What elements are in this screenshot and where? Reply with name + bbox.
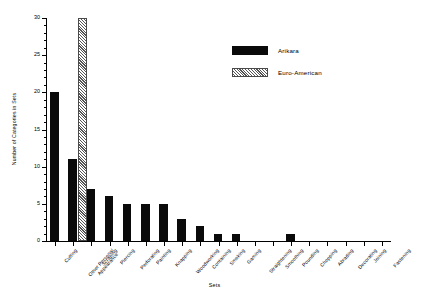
y-tick-label: 30 <box>34 15 40 20</box>
x-tick <box>91 242 92 246</box>
legend-swatch-euro-american <box>232 68 268 77</box>
y-tick-minor <box>44 196 46 197</box>
y-tick-minor <box>44 159 46 160</box>
y-tick-major: 5 <box>42 204 46 205</box>
x-tick <box>291 242 292 246</box>
x-tick <box>128 242 129 246</box>
x-axis-title: Sets <box>0 282 429 288</box>
x-tick-label: Gaming <box>246 248 262 265</box>
y-tick-minor <box>44 25 46 26</box>
chart-legend: Arikara Euro-American <box>232 46 352 90</box>
y-tick-minor <box>44 33 46 34</box>
x-tick <box>146 242 147 246</box>
y-tick-major: 15 <box>42 130 46 131</box>
bar-arikara <box>105 196 114 241</box>
x-tick <box>73 242 74 246</box>
y-axis-title: Number of Categories in Sets <box>11 49 17 209</box>
y-tick-major: 0 <box>42 241 46 242</box>
y-tick-minor <box>44 63 46 64</box>
x-tick <box>164 242 165 246</box>
y-tick-label: 5 <box>37 201 40 206</box>
y-tick-label: 15 <box>34 127 40 132</box>
x-tick <box>309 242 310 246</box>
x-tick <box>55 242 56 246</box>
x-tick <box>273 242 274 246</box>
y-tick-minor <box>44 211 46 212</box>
x-tick <box>327 242 328 246</box>
y-tick-minor <box>44 77 46 78</box>
x-tick <box>237 242 238 246</box>
y-tick-minor <box>44 40 46 41</box>
legend-label-arikara: Arikara <box>278 48 299 54</box>
bar-arikara <box>141 204 150 241</box>
y-tick-label: 20 <box>34 90 40 95</box>
x-tick-label: Knapping <box>174 248 193 268</box>
bar-arikara <box>159 204 168 241</box>
x-tick-label: Fastening <box>392 248 411 269</box>
bar-arikara <box>50 92 59 241</box>
y-tick-minor <box>44 122 46 123</box>
y-tick-major: 10 <box>42 167 46 168</box>
y-tick-minor <box>44 219 46 220</box>
x-tick <box>219 242 220 246</box>
x-tick <box>364 242 365 246</box>
y-tick-minor <box>44 85 46 86</box>
y-tick-label: 25 <box>34 52 40 57</box>
x-tick <box>110 242 111 246</box>
y-tick-minor <box>44 137 46 138</box>
y-tick-minor <box>44 107 46 108</box>
bar-arikara <box>68 159 77 241</box>
bar-arikara <box>87 189 96 241</box>
bar-arikara <box>123 204 132 241</box>
y-tick-minor <box>44 182 46 183</box>
y-tick-minor <box>44 100 46 101</box>
x-tick <box>200 242 201 246</box>
y-tick-minor <box>44 189 46 190</box>
y-tick-major: 25 <box>42 55 46 56</box>
y-tick-minor <box>44 152 46 153</box>
y-tick-minor <box>44 48 46 49</box>
x-tick-label: Cutting <box>64 248 79 264</box>
y-tick-minor <box>44 174 46 175</box>
y-tick-label: 0 <box>37 238 40 243</box>
legend-item-arikara: Arikara <box>232 46 352 68</box>
legend-item-euro-american: Euro-American <box>232 68 352 90</box>
x-tick <box>346 242 347 246</box>
bar-arikara <box>196 226 205 241</box>
y-tick-minor <box>44 115 46 116</box>
x-tick-label: Piercing <box>119 248 136 266</box>
bar-arikara <box>177 219 186 241</box>
x-tick-label: Chopping <box>320 248 339 268</box>
y-tick-major: 30 <box>42 18 46 19</box>
y-axis-line <box>46 18 47 242</box>
bar-arikara <box>232 234 241 241</box>
x-tick <box>182 242 183 246</box>
x-tick-label: Abrading <box>337 248 355 267</box>
y-tick-major: 20 <box>42 92 46 93</box>
y-tick-minor <box>44 70 46 71</box>
x-tick <box>255 242 256 246</box>
legend-label-euro-american: Euro-American <box>278 70 322 76</box>
bar-chart: Number of Categories in Sets 05101520253… <box>0 0 429 306</box>
y-tick-minor <box>44 234 46 235</box>
legend-swatch-arikara <box>232 46 268 55</box>
bar-arikara <box>286 234 295 241</box>
y-tick-minor <box>44 226 46 227</box>
bar-arikara <box>214 234 223 241</box>
x-tick <box>382 242 383 246</box>
y-tick-label: 10 <box>34 164 40 169</box>
y-tick-minor <box>44 144 46 145</box>
